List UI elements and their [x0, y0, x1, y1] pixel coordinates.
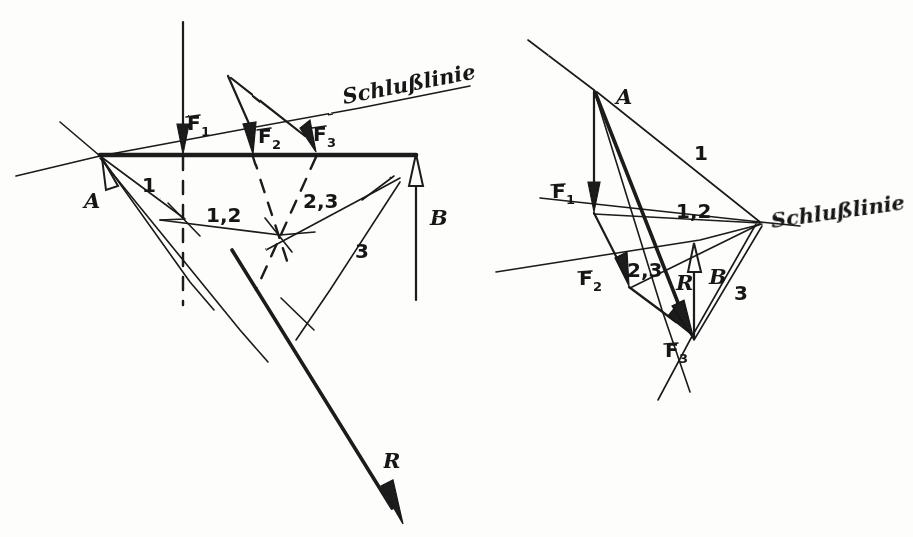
force-f2-arrowhead [243, 122, 256, 154]
node-tick-4 [281, 298, 314, 330]
left-force-label-f2: F 2 [257, 124, 281, 152]
left-ray-label-2-3: 2,3 [303, 189, 338, 213]
left-schlusslinie-line [16, 86, 470, 176]
right-ray-label-3: 3 [734, 281, 748, 305]
right-pole-upper-line [528, 40, 594, 90]
reaction-a-line-2 [103, 160, 214, 310]
svg-text:F: F [665, 338, 679, 362]
svg-text:2: 2 [272, 137, 281, 152]
right-resultant-r-label: R [675, 270, 693, 295]
right-force-label-f1: F 1 [551, 179, 575, 207]
right-ray-label-1: 1 [694, 141, 708, 165]
right-ray-label-2-3: 2,3 [627, 258, 662, 282]
right-force-f1-arrowhead [588, 182, 600, 212]
svg-text:1: 1 [566, 192, 575, 207]
left-ray-label-1: 1 [142, 173, 156, 197]
support-b-label: B [429, 205, 448, 230]
resultant-r-arrowhead [381, 480, 403, 524]
left-ray-label-1-2: 1,2 [206, 203, 241, 227]
right-diagram-group: A B R F 1 F 2 F 3 1 1,2 2,3 3 Schlußli [496, 40, 906, 400]
statics-sketch: A B R F 1 F 2 F 3 1 1,2 2,3 3 [0, 0, 913, 537]
right-pole-a-label: A [614, 84, 632, 109]
right-pole-ray-3 [694, 226, 762, 340]
right-support-b-label: B [708, 264, 727, 289]
svg-text:F: F [552, 179, 566, 203]
right-force-label-f2: F 2 [578, 266, 602, 294]
rf2-overbar [578, 271, 592, 272]
right-schlusslinie-label: Schlußlinie [769, 189, 906, 233]
right-ray-label-1-2: 1,2 [676, 199, 711, 223]
svg-text:3: 3 [679, 351, 688, 366]
left-force-label-f3: F 3 [312, 122, 336, 150]
right-support-b-arrowhead [688, 243, 701, 272]
support-b-arrowhead [409, 154, 423, 186]
node-tick-3 [362, 176, 394, 200]
figure-canvas: A B R F 1 F 2 F 3 1 1,2 2,3 3 [0, 0, 913, 537]
svg-text:1: 1 [201, 124, 210, 139]
right-force-label-f3: F 3 [664, 338, 688, 366]
left-ray-label-3: 3 [355, 239, 369, 263]
left-schlusslinie-label: Schlußlinie [340, 59, 477, 109]
support-a-label: A [82, 188, 100, 213]
f3-action-line-dashed [256, 157, 316, 290]
svg-text:2: 2 [593, 279, 602, 294]
svg-text:3: 3 [327, 135, 336, 150]
right-transversal-upper [540, 198, 800, 226]
left-force-label-f1: F 1 [186, 111, 210, 139]
left-schlusslinie-stub [60, 122, 100, 156]
rf3-overbar [664, 343, 678, 344]
rf1-overbar [551, 184, 565, 185]
resultant-r-shaft [232, 250, 392, 508]
svg-text:F: F [579, 266, 593, 290]
resultant-r-label: R [382, 448, 400, 473]
left-diagram-group: A B R F 1 F 2 F 3 1 1,2 2,3 3 [16, 22, 477, 524]
